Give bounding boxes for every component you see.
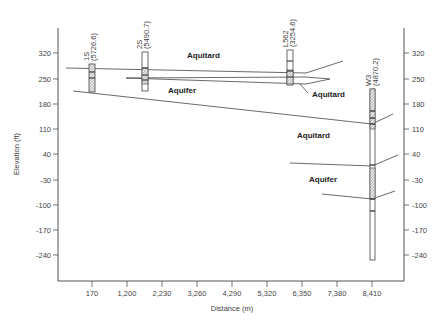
svg-text:-30: -30 xyxy=(412,176,423,185)
x-axis-title: Distance (m) xyxy=(211,304,254,313)
svg-text:7,380: 7,380 xyxy=(328,289,347,298)
y-ticks-left xyxy=(53,53,58,255)
svg-text:8,410: 8,410 xyxy=(363,289,382,298)
label-aquitard-lens: Aquitard xyxy=(312,90,345,99)
lens-bottom xyxy=(126,78,306,84)
lens-top xyxy=(126,77,306,78)
boundary-mid-rise xyxy=(372,155,398,166)
label-aquitard-top: Aquitard xyxy=(187,51,220,60)
svg-text:40: 40 xyxy=(412,150,420,159)
svg-text:4,290: 4,290 xyxy=(223,289,242,298)
svg-text:-170: -170 xyxy=(412,226,427,235)
boundary-lower-rise xyxy=(372,191,395,199)
x-tick-labels: 170 1,200 2,230 3,260 4,290 5,320 6,350 … xyxy=(86,289,382,298)
cross-section-diagram: 320 250 180 110 40 -30 -100 -170 -240 32… xyxy=(0,0,447,328)
svg-text:250: 250 xyxy=(38,75,51,84)
well-w3-elevation: (4870.2) xyxy=(371,58,380,86)
svg-text:-100: -100 xyxy=(36,201,51,210)
svg-text:5,320: 5,320 xyxy=(258,289,277,298)
svg-text:1,200: 1,200 xyxy=(118,289,137,298)
boundary-mid xyxy=(290,163,372,166)
label-aquifer-lower: Aquifer xyxy=(309,175,337,184)
svg-text:320: 320 xyxy=(38,49,51,58)
well-l562-elevation: (3254.6) xyxy=(288,19,297,47)
well-1s-elevation: (5726.6) xyxy=(89,33,98,61)
svg-text:3,260: 3,260 xyxy=(188,289,207,298)
svg-text:320: 320 xyxy=(412,49,425,58)
y-axis-title: Elevation (ft) xyxy=(12,132,21,175)
svg-text:-30: -30 xyxy=(40,176,51,185)
aquitard-leader-line xyxy=(300,84,308,93)
svg-text:-170: -170 xyxy=(36,226,51,235)
svg-text:6,350: 6,350 xyxy=(293,289,312,298)
y-tick-labels-left: 320 250 180 110 40 -30 -100 -170 -240 xyxy=(36,49,51,260)
svg-text:170: 170 xyxy=(86,289,99,298)
well-w3 xyxy=(370,89,375,260)
boundary-upper xyxy=(66,68,306,73)
axes xyxy=(58,28,404,281)
label-aquitard-mid: Aquitard xyxy=(297,131,330,140)
label-aquifer-upper: Aquifer xyxy=(168,86,196,95)
svg-text:2,230: 2,230 xyxy=(153,289,172,298)
svg-text:-100: -100 xyxy=(412,201,427,210)
svg-text:-240: -240 xyxy=(412,251,427,260)
well-2s-elevation: (5490.7) xyxy=(142,21,151,49)
well-l562 xyxy=(287,50,293,85)
svg-text:40: 40 xyxy=(43,150,51,159)
lens-tip-top xyxy=(306,77,330,79)
svg-text:180: 180 xyxy=(38,100,51,109)
layer-boundaries xyxy=(66,61,398,199)
boundary-upper-rise xyxy=(306,61,343,73)
well-labels: 1S (5726.6) 2S (5490.7) L562 (3254.6) W3… xyxy=(82,19,380,86)
svg-text:110: 110 xyxy=(412,125,424,134)
well-2s xyxy=(142,52,148,91)
svg-text:250: 250 xyxy=(412,75,425,84)
x-ticks xyxy=(92,281,372,287)
svg-text:-240: -240 xyxy=(36,251,51,260)
well-1s xyxy=(89,64,95,92)
lens-tip-bottom xyxy=(306,79,330,84)
y-tick-labels-right: 320 250 180 110 40 -30 -100 -170 -240 xyxy=(412,49,427,260)
svg-text:110: 110 xyxy=(39,125,51,134)
svg-text:180: 180 xyxy=(412,100,425,109)
y-ticks-right xyxy=(404,53,409,255)
boundary-lower xyxy=(322,194,372,199)
